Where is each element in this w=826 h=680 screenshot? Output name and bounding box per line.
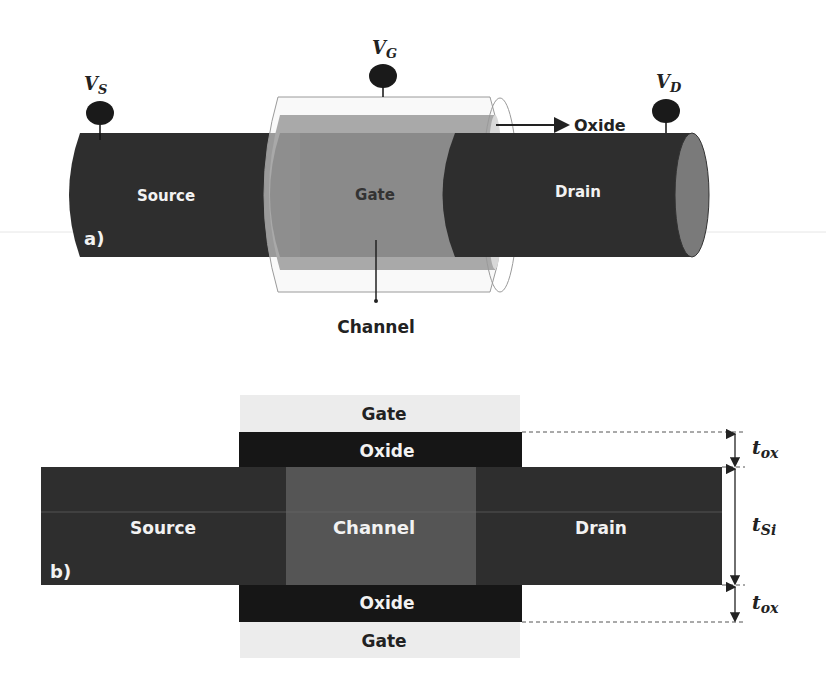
panel-label-b: b) (50, 561, 71, 582)
label-gate-bottom: Gate (361, 631, 406, 651)
terminal-knob-icon (652, 99, 680, 123)
label-drain-a: Drain (555, 183, 601, 201)
panel-label-a: a) (84, 228, 104, 249)
drain-end-cap (675, 133, 709, 257)
label-channel-b: Channel (333, 517, 415, 538)
figure-b-cross-section: Gate Oxide Source Channel Drain b) Oxide… (41, 395, 779, 658)
terminal-vg (369, 64, 397, 97)
label-vs: VS (84, 73, 107, 97)
terminal-knob-icon (369, 64, 397, 88)
label-tsi: tSi (752, 513, 776, 538)
label-oxide-bottom: Oxide (360, 593, 415, 613)
label-drain-b: Drain (575, 518, 627, 538)
terminal-knob-icon (86, 101, 114, 125)
label-gate-a: Gate (355, 186, 395, 204)
label-vd: VD (656, 71, 682, 95)
label-gate-top: Gate (361, 404, 406, 424)
label-channel-a: Channel (337, 317, 415, 337)
terminal-vd (652, 99, 680, 133)
label-source-a: Source (137, 187, 195, 205)
label-oxide-top: Oxide (360, 441, 415, 461)
label-source-b: Source (130, 518, 196, 538)
mosfet-figure: VS VG VD Source Gate Drain a) Oxide Chan… (0, 0, 826, 680)
label-tox-bottom: tox (752, 591, 779, 616)
label-tox-top: tox (752, 436, 779, 461)
figure-a-gaa-3d: VS VG VD Source Gate Drain a) Oxide Chan… (69, 37, 709, 337)
label-oxide-a: Oxide (574, 116, 626, 135)
label-vg: VG (372, 37, 397, 61)
